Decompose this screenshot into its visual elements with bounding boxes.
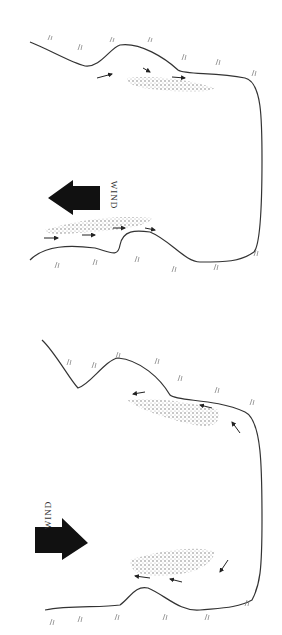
grass-tufts-top [48,35,258,272]
sandbar-bottom-upper [127,399,219,426]
bay-sandbar-diagram [0,0,282,635]
top-panel [30,35,262,272]
wind-label-top: WIND [109,181,119,210]
bottom-panel [35,340,262,625]
grass-tufts-bottom [50,352,254,625]
sandbar-top-upper [127,77,215,92]
wind-arrow-top [48,180,100,215]
sandbar-bottom-lower [130,549,215,576]
current-arrows-top [44,68,185,238]
wind-label-bottom: WIND [43,501,53,530]
